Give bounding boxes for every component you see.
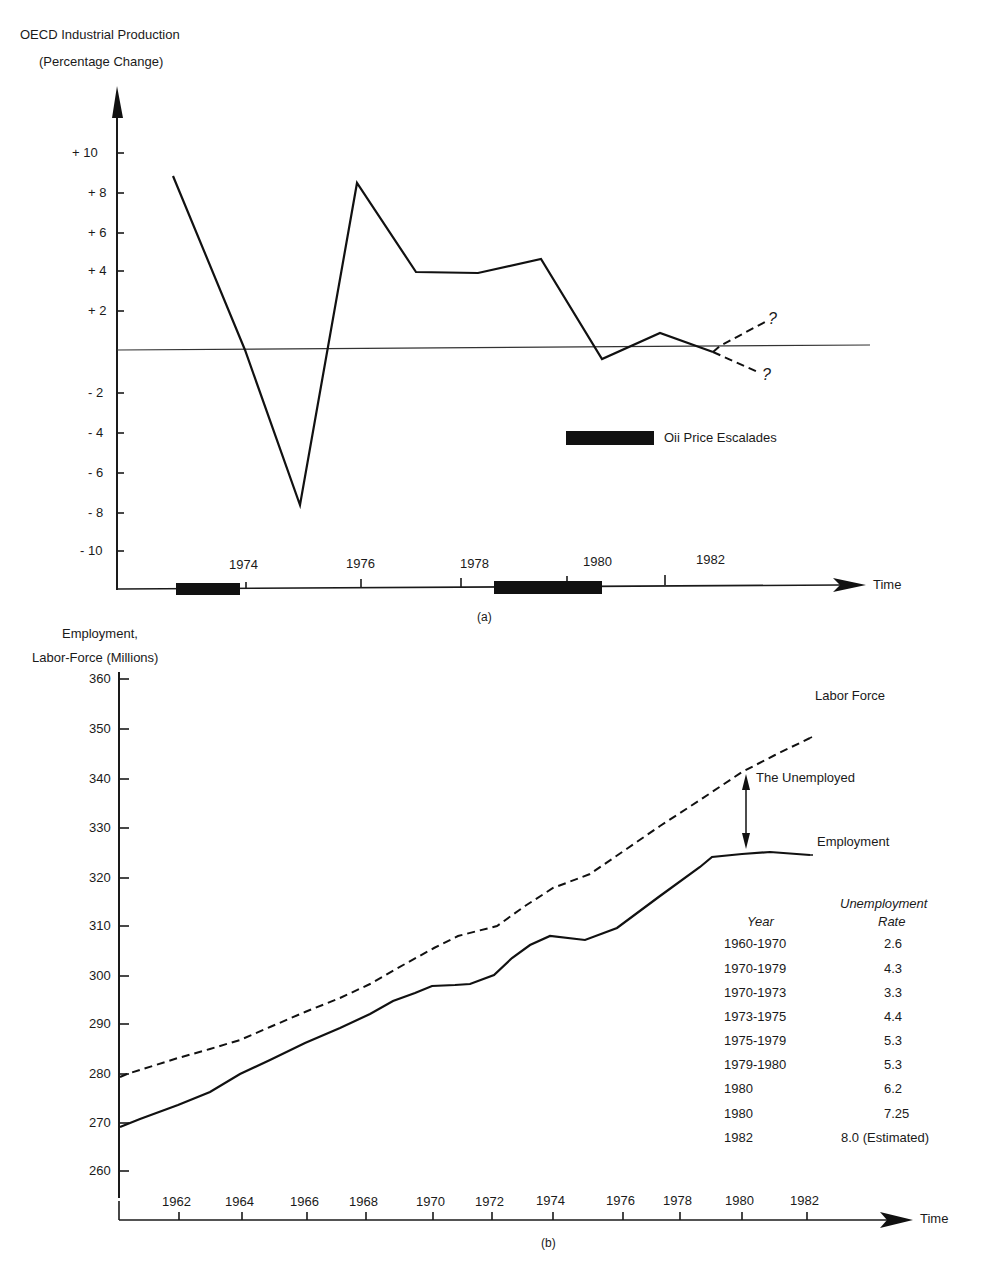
table-header-rate-line1: Unemployment [840,896,927,911]
xtick-label: 1976 [346,556,375,571]
xtick-label: 1980 [583,554,612,569]
table-cell-year: 1980 [724,1081,753,1096]
figure-a-zero-line [117,345,870,350]
table-cell-rate: 6.2 [884,1081,902,1096]
ytick-label: + 6 [88,225,106,240]
ytick-label: - 2 [88,385,103,400]
table-cell-year: 1982 [724,1130,753,1145]
table-cell-year: 1980 [724,1106,753,1121]
figure-b-caption: (b) [541,1236,556,1250]
figure-a-y-ticks [117,153,124,551]
ytick-label: 270 [89,1115,111,1130]
table-cell-rate: 5.3 [884,1033,902,1048]
unemployed-annotation: The Unemployed [756,770,855,785]
xtick-label: 1982 [790,1193,819,1208]
xtick-label: 1974 [536,1193,565,1208]
ytick-label: 300 [89,968,111,983]
table-header-rate-line2: Rate [878,914,905,929]
ytick-label: 290 [89,1016,111,1031]
ytick-label: - 8 [88,505,103,520]
xtick-label: 1972 [475,1194,504,1209]
table-cell-rate: 4.3 [884,961,902,976]
table-header-year: Year [747,914,774,929]
xtick-label: 1962 [162,1194,191,1209]
table-cell-rate: 8.0 (Estimated) [841,1130,929,1145]
labor-force-label: Labor Force [815,688,885,703]
figure-b-ylabel-line1: Employment, [62,626,138,641]
table-cell-year: 1960-1970 [724,936,786,951]
y-axis-arrow-icon [112,86,123,118]
employment-label: Employment [817,834,889,849]
ytick-label: - 4 [88,425,103,440]
table-cell-rate: 2.6 [884,936,902,951]
arrow-up-icon [742,774,750,790]
projection-lower-dashed [713,352,760,373]
xtick-label: 1968 [349,1194,378,1209]
ytick-label: 330 [89,820,111,835]
ytick-label: - 10 [80,543,102,558]
table-cell-year: 1970-1979 [724,961,786,976]
xtick-label: 1966 [290,1194,319,1209]
ytick-label: 280 [89,1066,111,1081]
figure-b-xlabel: Time [920,1211,948,1226]
figure-b-x-ticks [179,1212,807,1220]
xtick-label: 1978 [460,556,489,571]
ytick-label: + 4 [88,263,106,278]
xtick-label: 1976 [606,1193,635,1208]
xtick-label: 1964 [225,1194,254,1209]
ytick-label: + 10 [72,145,98,160]
table-cell-year: 1979-1980 [724,1057,786,1072]
table-cell-year: 1975-1979 [724,1033,786,1048]
arrow-down-icon [742,833,750,849]
oecd-production-line [173,176,713,505]
projection-upper-dashed [713,322,765,352]
oil-price-bar-1973 [176,583,240,595]
xtick-label: 1980 [725,1193,754,1208]
ytick-label: 360 [89,671,111,686]
ytick-label: 260 [89,1163,111,1178]
table-cell-year: 1973-1975 [724,1009,786,1024]
xtick-label: 1970 [416,1194,445,1209]
legend-oil-price-swatch [566,431,654,445]
xtick-label: 1982 [696,552,725,567]
ytick-label: 320 [89,870,111,885]
question-mark-lower: ? [762,366,771,384]
legend-oil-price-label: Oii Price Escalades [664,430,777,445]
table-cell-rate: 7.25 [884,1106,909,1121]
table-cell-year: 1970-1973 [724,985,786,1000]
ytick-label: + 2 [88,303,106,318]
table-cell-rate: 3.3 [884,985,902,1000]
xtick-label: 1978 [663,1193,692,1208]
figure-a-xlabel: Time [873,577,901,592]
table-cell-rate: 5.3 [884,1057,902,1072]
figure-a-plot [0,0,985,620]
labor-force-line [120,738,810,1077]
ytick-label: - 6 [88,465,103,480]
table-cell-rate: 4.4 [884,1009,902,1024]
figure-a-caption: (a) [477,610,492,624]
xtick-label: 1974 [229,557,258,572]
figure-b-y-ticks [119,679,129,1171]
question-mark-upper: ? [768,310,777,328]
figure-b-plot [0,660,985,1267]
ytick-label: 340 [89,771,111,786]
oil-price-bar-1979 [494,581,602,594]
ytick-label: 310 [89,918,111,933]
ytick-label: + 8 [88,185,106,200]
employment-line [120,852,810,1127]
ytick-label: 350 [89,721,111,736]
